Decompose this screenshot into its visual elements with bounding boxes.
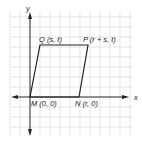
x-axis-right-arrow-icon — [122, 95, 129, 99]
vertex-label-n: N (r, 0) — [75, 99, 98, 108]
x-axis-left-arrow-icon — [11, 95, 18, 99]
grid — [10, 12, 133, 135]
x-axis-label: x — [133, 93, 138, 102]
y-axis-down-arrow-icon — [28, 129, 32, 136]
y-axis-label: y — [25, 4, 31, 13]
vertex-label-p: P (r + s, t) — [83, 35, 116, 44]
vertex-label-m: M (0, 0) — [31, 99, 57, 108]
vertex-label-q: Q (s, t) — [39, 35, 62, 44]
coordinate-diagram: x y M (0, 0) N (r, 0) P (r + s, t) Q (s,… — [0, 0, 142, 143]
y-axis-up-arrow-icon — [28, 12, 32, 19]
parallelogram-MNPQ — [30, 45, 88, 97]
